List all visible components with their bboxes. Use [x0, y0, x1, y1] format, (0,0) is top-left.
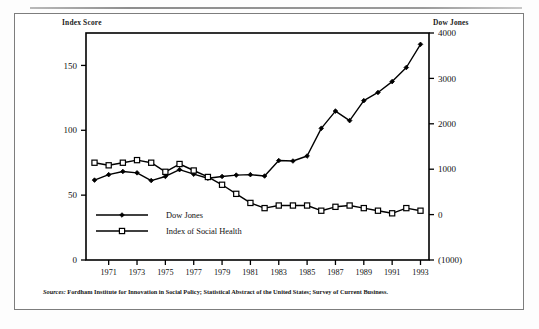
- data-point: [220, 174, 225, 179]
- x-tick-label: 1971: [100, 268, 116, 277]
- x-tick-label: 1991: [384, 268, 400, 277]
- data-point: [92, 160, 97, 165]
- x-axis: 1971197319751977197919811983198519871989…: [100, 260, 428, 277]
- data-point: [92, 178, 97, 183]
- right-tick-label: 3000: [438, 74, 457, 84]
- right-tick-label: 2000: [438, 119, 457, 129]
- left-tick-label: 100: [64, 125, 78, 135]
- data-point: [149, 160, 154, 165]
- legend-item-index-of-social-health: Index of Social Health: [96, 227, 242, 236]
- data-point: [262, 206, 267, 211]
- series-layer: [92, 42, 423, 216]
- data-point: [361, 206, 366, 211]
- legend-label: Index of Social Health: [166, 227, 242, 236]
- source-text: Fordham Institute for Innovation in Soci…: [66, 288, 388, 295]
- x-tick-label: 1985: [299, 268, 315, 277]
- data-point: [290, 203, 295, 208]
- right-tick-label: (1000): [438, 255, 462, 265]
- data-point: [120, 160, 125, 165]
- x-tick-label: 1977: [186, 268, 202, 277]
- data-point: [305, 203, 310, 208]
- data-point: [177, 161, 182, 166]
- x-tick-label: 1973: [129, 268, 145, 277]
- right-tick-label: 0: [438, 210, 443, 220]
- legend-marker: [120, 213, 125, 218]
- data-point: [248, 172, 253, 177]
- x-tick-label: 1983: [271, 268, 287, 277]
- data-point: [418, 208, 423, 213]
- data-point: [177, 167, 182, 172]
- data-point: [291, 159, 296, 164]
- data-point: [205, 174, 210, 179]
- data-point: [134, 158, 139, 163]
- data-point: [276, 203, 281, 208]
- left-tick-label: 0: [73, 255, 78, 265]
- data-point: [234, 173, 239, 178]
- x-tick-label: 1987: [327, 268, 343, 277]
- series-dow-jones: [92, 42, 423, 183]
- data-point: [319, 208, 324, 213]
- chart-canvas: 050100150 (1000)01000200030004000 197119…: [0, 0, 539, 329]
- right-axis: (1000)01000200030004000: [429, 28, 462, 265]
- legend-marker: [119, 228, 124, 233]
- data-point: [121, 169, 126, 174]
- x-tick-label: 1975: [157, 268, 173, 277]
- legend-label: Dow Jones: [166, 211, 203, 220]
- right-tick-label: 1000: [438, 164, 457, 174]
- left-tick-label: 150: [64, 61, 78, 71]
- data-point: [375, 208, 380, 213]
- data-point: [404, 206, 409, 211]
- legend-layer: Dow JonesIndex of Social Health: [96, 211, 242, 236]
- right-tick-label: 4000: [438, 28, 457, 38]
- series-index-of-social-health: [92, 158, 423, 216]
- data-point: [163, 169, 168, 174]
- left-tick-label: 50: [68, 190, 78, 200]
- data-point: [347, 203, 352, 208]
- data-point: [219, 182, 224, 187]
- data-point: [390, 211, 395, 216]
- source-note: Sources: Fordham Institute for Innovatio…: [43, 288, 503, 296]
- data-point: [248, 200, 253, 205]
- data-point: [234, 191, 239, 196]
- plot-frame: [86, 33, 429, 260]
- legend-item-dow-jones: Dow Jones: [96, 211, 203, 220]
- x-tick-label: 1993: [412, 268, 428, 277]
- x-tick-label: 1989: [356, 268, 372, 277]
- data-point: [106, 163, 111, 168]
- left-axis: 050100150: [64, 61, 87, 266]
- figure-page: Index Score Dow Jones 050100150 (1000)01…: [0, 0, 539, 329]
- x-tick-label: 1979: [214, 268, 230, 277]
- source-prefix: Sources:: [43, 288, 66, 295]
- data-point: [191, 168, 196, 173]
- data-point: [106, 172, 111, 177]
- data-point: [333, 204, 338, 209]
- x-tick-label: 1981: [242, 268, 258, 277]
